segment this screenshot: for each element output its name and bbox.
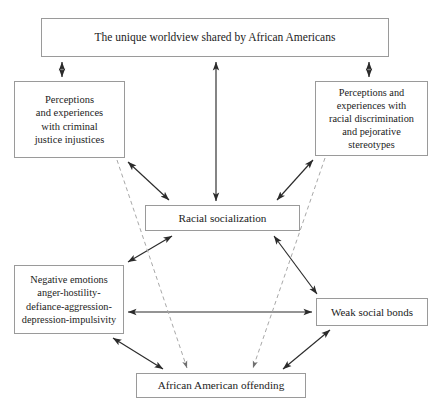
node-worldview[interactable]: The unique worldview shared by African A… — [41, 18, 389, 57]
node-worldview-label: The unique worldview shared by African A… — [91, 30, 340, 45]
diagram-canvas: The unique worldview shared by African A… — [0, 0, 445, 412]
edge-discrimination-to-racial-socialization — [277, 160, 313, 200]
node-racial-socialization[interactable]: Racial socialization — [145, 205, 300, 231]
node-criminal-justice-label: Perceptions and experiences with crimina… — [31, 93, 109, 147]
edge-criminal-justice-to-racial-socialization — [128, 162, 169, 200]
node-discrimination[interactable]: Perceptions and experiences with racial … — [315, 81, 428, 156]
node-offending[interactable]: African American offending — [136, 373, 306, 398]
node-offending-label: African American offending — [154, 378, 289, 392]
node-weak-social-bonds[interactable]: Weak social bonds — [316, 298, 428, 326]
edge-criminal-justice-to-offending-dashed — [117, 160, 187, 368]
node-negative-emotions-label: Negative emotions anger-hostility- defia… — [18, 273, 120, 326]
node-negative-emotions[interactable]: Negative emotions anger-hostility- defia… — [14, 265, 124, 334]
node-criminal-justice[interactable]: Perceptions and experiences with crimina… — [14, 81, 125, 158]
edge-negative-emotions-to-offending — [113, 338, 163, 369]
node-racial-socialization-label: Racial socialization — [175, 211, 271, 225]
edge-discrimination-to-offending-dashed — [253, 158, 325, 368]
top-cropped-glyph-left — [63, 0, 70, 6]
edge-weak-social-bonds-to-offending — [283, 330, 330, 369]
node-weak-social-bonds-label: Weak social bonds — [327, 305, 417, 319]
edge-racial-socialization-to-weak-social-bonds — [274, 236, 317, 294]
node-discrimination-label: Perceptions and experiences with racial … — [325, 86, 418, 152]
